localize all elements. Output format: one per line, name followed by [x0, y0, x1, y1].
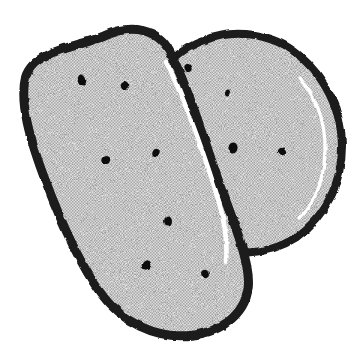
illustration-canvas: Two Potatoes Line-art illustration of tw…	[0, 0, 360, 357]
front-potato-eye	[164, 216, 172, 225]
potatoes-illustration	[0, 0, 360, 357]
